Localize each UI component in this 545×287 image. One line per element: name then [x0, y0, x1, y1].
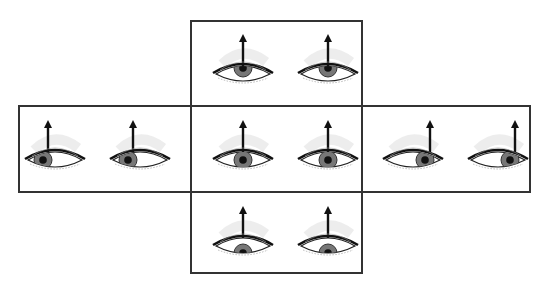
brow-shade-icon — [119, 139, 163, 150]
eye-down-right — [293, 194, 363, 264]
divider-left — [190, 105, 192, 193]
eye-center-left — [208, 108, 278, 178]
eye-right-left — [378, 108, 448, 178]
brow-shade-icon — [34, 139, 78, 150]
eye-down-left — [208, 194, 278, 264]
eye-left-left — [20, 108, 90, 178]
eye-left-right — [105, 108, 175, 178]
eye-right-right — [463, 108, 533, 178]
eye-center-right — [293, 108, 363, 178]
eye-up-right — [293, 22, 363, 92]
eye-up-left — [208, 22, 278, 92]
